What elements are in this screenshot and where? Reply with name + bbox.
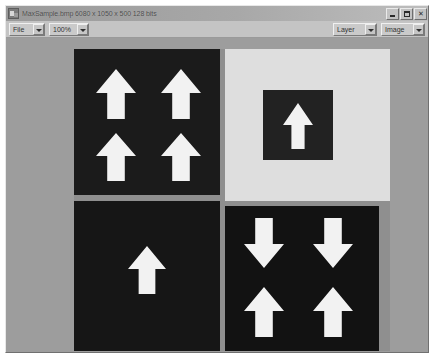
image-quadrant-bottom-right[interactable] (225, 206, 379, 351)
window-title: MaxSample.bmp 6080 x 1050 x 500 128 bits (22, 9, 386, 18)
zoom-level-dropdown[interactable]: 100% (49, 23, 89, 36)
maximize-button[interactable] (400, 8, 413, 20)
window-controls: ✕ (386, 8, 427, 20)
chevron-down-icon[interactable] (33, 24, 44, 35)
arrow-up-icon (244, 287, 284, 337)
close-icon: ✕ (415, 9, 426, 19)
image-quadrant-bottom-left[interactable] (74, 201, 220, 351)
image-quadrant-top-right[interactable] (225, 49, 390, 201)
toolbar: File 100% Layer Image (6, 21, 428, 38)
layer-select-label: Layer (337, 24, 365, 35)
zoom-level-label: 100% (53, 24, 77, 35)
layer-select-dropdown[interactable]: Layer (333, 23, 377, 36)
image-select-label: Image (385, 24, 413, 35)
arrow-down-icon (244, 218, 284, 268)
file-menu-dropdown[interactable]: File (9, 23, 45, 36)
chevron-down-icon[interactable] (77, 24, 88, 35)
close-button[interactable]: ✕ (414, 8, 427, 20)
image-document[interactable] (74, 49, 390, 351)
arrow-down-icon (313, 218, 353, 268)
chevron-down-icon[interactable] (413, 24, 424, 35)
image-quadrant-top-left[interactable] (74, 49, 220, 195)
inner-dark-square (263, 90, 333, 160)
application-window: MaxSample.bmp 6080 x 1050 x 500 128 bits… (5, 5, 429, 353)
minimize-icon (390, 15, 395, 17)
arrow-up-icon (161, 69, 201, 119)
file-menu-label: File (13, 24, 33, 35)
image-select-dropdown[interactable]: Image (381, 23, 425, 36)
arrow-up-icon (96, 69, 136, 119)
arrow-up-icon (313, 287, 353, 337)
app-icon (8, 8, 19, 19)
toolbar-right-group: Layer Image (333, 23, 425, 36)
toolbar-left-group: File 100% (9, 23, 89, 36)
arrow-up-icon (161, 133, 201, 181)
arrow-up-icon (128, 246, 166, 294)
arrow-up-icon (96, 133, 136, 181)
chevron-down-icon[interactable] (365, 24, 376, 35)
title-bar[interactable]: MaxSample.bmp 6080 x 1050 x 500 128 bits… (6, 6, 428, 21)
minimize-button[interactable] (386, 8, 399, 20)
arrow-up-icon (283, 103, 313, 149)
maximize-icon (404, 11, 410, 17)
canvas-area[interactable] (6, 38, 428, 352)
